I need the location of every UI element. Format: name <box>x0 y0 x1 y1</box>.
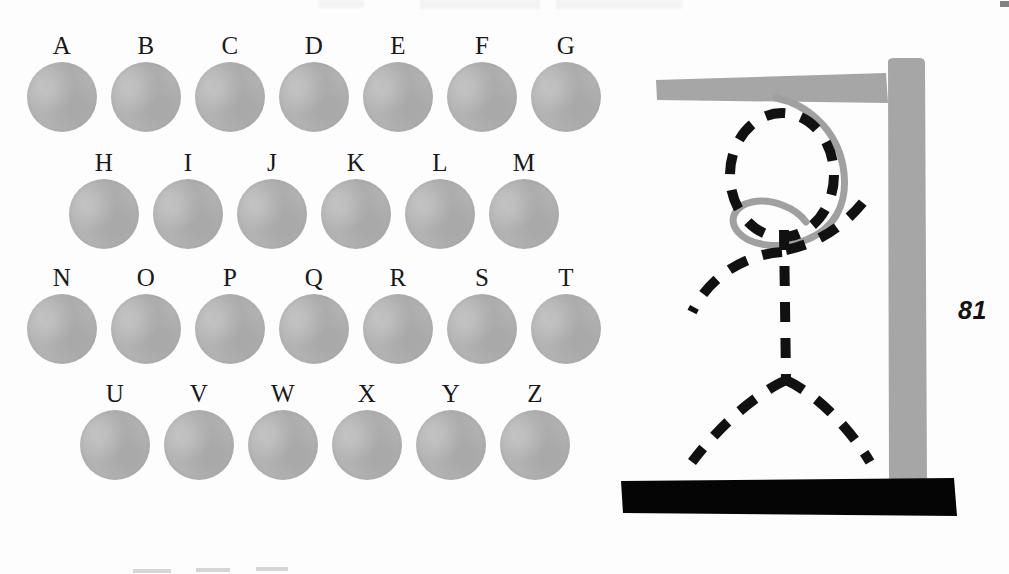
letter-disc-q[interactable] <box>279 294 349 364</box>
letter-disc-m[interactable] <box>489 179 559 249</box>
hangman-left-arm-shape <box>692 252 782 312</box>
letter-cell-q[interactable]: Q <box>279 265 349 364</box>
letter-label-q: Q <box>305 265 323 291</box>
letter-disc-y[interactable] <box>416 410 486 480</box>
letter-label-w: W <box>271 381 295 407</box>
letter-label-f: F <box>475 33 489 59</box>
letter-cell-l[interactable]: L <box>405 150 475 249</box>
letter-label-b: B <box>138 33 155 59</box>
letter-cell-c[interactable]: C <box>195 33 265 132</box>
letter-disc-k[interactable] <box>321 179 391 249</box>
letter-cell-v[interactable]: V <box>164 381 234 480</box>
letter-disc-w[interactable] <box>248 410 318 480</box>
letter-label-v: V <box>190 381 208 407</box>
letter-disc-j[interactable] <box>237 179 307 249</box>
hangman-head-shape <box>730 113 834 237</box>
letter-cell-p[interactable]: P <box>195 265 265 364</box>
alphabet-row-4: UVWXYZ <box>80 381 570 480</box>
alphabet-letter-grid: ABCDEFGHIJKLMNOPQRSTUVWXYZ <box>0 0 650 520</box>
letter-disc-z[interactable] <box>500 410 570 480</box>
letter-label-r: R <box>390 265 407 291</box>
letter-disc-g[interactable] <box>531 62 601 132</box>
scan-bottom-mark-2 <box>196 568 230 572</box>
letter-cell-g[interactable]: G <box>531 33 601 132</box>
letter-label-c: C <box>222 33 239 59</box>
alphabet-row-3: NOPQRST <box>27 265 601 364</box>
letter-label-z: Z <box>527 381 542 407</box>
letter-disc-x[interactable] <box>332 410 402 480</box>
letter-label-i: I <box>184 150 193 176</box>
letter-disc-b[interactable] <box>111 62 181 132</box>
letter-cell-s[interactable]: S <box>447 265 517 364</box>
letter-label-j: J <box>267 150 277 176</box>
letter-cell-u[interactable]: U <box>80 381 150 480</box>
letter-cell-r[interactable]: R <box>363 265 433 364</box>
letter-label-e: E <box>390 33 405 59</box>
letter-disc-s[interactable] <box>447 294 517 364</box>
letter-cell-h[interactable]: H <box>69 150 139 249</box>
letter-cell-m[interactable]: M <box>489 150 559 249</box>
letter-disc-u[interactable] <box>80 410 150 480</box>
letter-cell-w[interactable]: W <box>248 381 318 480</box>
alphabet-row-1: ABCDEFG <box>27 33 601 132</box>
gallows-top-beam-shape <box>656 73 888 103</box>
letter-label-h: H <box>95 150 113 176</box>
letter-disc-e[interactable] <box>363 62 433 132</box>
letter-label-s: S <box>475 265 489 291</box>
letter-disc-p[interactable] <box>195 294 265 364</box>
scan-bottom-mark-1 <box>133 569 171 573</box>
letter-disc-v[interactable] <box>164 410 234 480</box>
letter-disc-f[interactable] <box>447 62 517 132</box>
letter-cell-k[interactable]: K <box>321 150 391 249</box>
letter-label-x: X <box>358 381 376 407</box>
letter-disc-l[interactable] <box>405 179 475 249</box>
letter-disc-a[interactable] <box>27 62 97 132</box>
letter-label-y: Y <box>442 381 460 407</box>
letter-label-u: U <box>106 381 124 407</box>
letter-cell-t[interactable]: T <box>531 265 601 364</box>
letter-label-m: M <box>513 150 535 176</box>
letter-cell-j[interactable]: J <box>237 150 307 249</box>
letter-cell-e[interactable]: E <box>363 33 433 132</box>
letter-cell-i[interactable]: I <box>153 150 223 249</box>
letter-cell-z[interactable]: Z <box>500 381 570 480</box>
gallows-vertical-post-shape <box>888 58 927 485</box>
letter-disc-r[interactable] <box>363 294 433 364</box>
hangman-body-shape <box>784 230 786 380</box>
letter-cell-b[interactable]: B <box>111 33 181 132</box>
letter-disc-i[interactable] <box>153 179 223 249</box>
letter-label-p: P <box>223 265 237 291</box>
letter-disc-o[interactable] <box>111 294 181 364</box>
letter-label-a: A <box>53 33 71 59</box>
letter-cell-n[interactable]: N <box>27 265 97 364</box>
letter-disc-d[interactable] <box>279 62 349 132</box>
letter-label-t: T <box>558 265 573 291</box>
gallows-base-platform-shape <box>621 478 957 516</box>
hangman-gallows-illustration <box>600 0 1009 574</box>
letter-label-n: N <box>53 265 71 291</box>
puzzle-page: ABCDEFGHIJKLMNOPQRSTUVWXYZ <box>0 0 1009 574</box>
letter-disc-n[interactable] <box>27 294 97 364</box>
letter-cell-x[interactable]: X <box>332 381 402 480</box>
letter-cell-a[interactable]: A <box>27 33 97 132</box>
letter-cell-y[interactable]: Y <box>416 381 486 480</box>
letter-cell-o[interactable]: O <box>111 265 181 364</box>
hangman-right-leg-shape <box>786 380 870 462</box>
alphabet-row-2: HIJKLM <box>69 150 559 249</box>
letter-disc-h[interactable] <box>69 179 139 249</box>
letter-cell-f[interactable]: F <box>447 33 517 132</box>
letter-label-k: K <box>347 150 365 176</box>
letter-disc-t[interactable] <box>531 294 601 364</box>
page-number: 81 <box>958 296 987 325</box>
letter-disc-c[interactable] <box>195 62 265 132</box>
scan-bottom-mark-3 <box>256 567 288 571</box>
letter-label-g: G <box>557 33 575 59</box>
letter-cell-d[interactable]: D <box>279 33 349 132</box>
hangman-left-leg-shape <box>692 380 786 462</box>
letter-label-o: O <box>137 265 155 291</box>
letter-label-l: L <box>432 150 447 176</box>
letter-label-d: D <box>305 33 323 59</box>
